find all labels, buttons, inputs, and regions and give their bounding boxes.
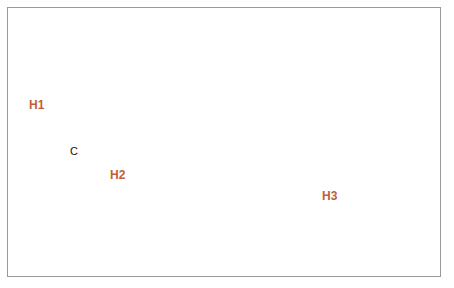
circle-label-h2: H2 — [110, 168, 126, 182]
circle-label-h3: H3 — [322, 189, 338, 203]
figure-frame — [7, 7, 441, 277]
circle-label-c: C — [70, 145, 78, 157]
circle-label-h1: H1 — [29, 98, 45, 112]
map-figure: H1 H2 H3 C — [0, 0, 454, 288]
